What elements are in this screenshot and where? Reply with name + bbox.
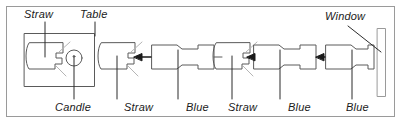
blue-block-2	[254, 45, 316, 69]
arrow-2-head	[247, 54, 255, 61]
label-window-top: Window	[325, 10, 365, 22]
label-straw-top: Straw	[24, 8, 53, 20]
hatch-table-lower	[56, 66, 66, 76]
label-candle-bottom: Candle	[55, 101, 91, 113]
label-blue-bottom-1: Blue	[186, 101, 209, 113]
arrow-1-head	[134, 54, 142, 61]
blue-block-3	[326, 45, 374, 69]
label-blue-bottom-3: Blue	[346, 101, 369, 113]
hatch-straw1-lower	[128, 66, 138, 76]
candle-wick-dot	[73, 56, 75, 58]
label-table-top: Table	[80, 8, 108, 20]
label-blue-bottom-2: Blue	[288, 101, 311, 113]
diagram-panel: Straw Table Window Candle Straw Blue Str…	[0, 0, 403, 125]
arrow-3-head	[316, 54, 324, 61]
window-bar	[378, 29, 386, 97]
label-straw-bottom-2: Straw	[228, 101, 257, 113]
label-straw-bottom-1: Straw	[124, 101, 153, 113]
leader-window-top	[348, 26, 381, 52]
hatch-straw2-lower	[243, 66, 253, 76]
table-enclosure	[25, 34, 95, 87]
blue-block-1	[152, 45, 214, 69]
